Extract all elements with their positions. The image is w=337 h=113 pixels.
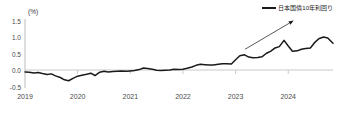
- bond-yield-chart: (%) -0.50.00.51.01.5 2019202020212022202…: [0, 0, 337, 113]
- legend-label: 日本国債10年利回り: [278, 3, 333, 12]
- upward-trend-arrow-icon: [245, 21, 292, 49]
- x-tick-label: 2021: [114, 93, 146, 100]
- y-tick-label: 1.5: [0, 18, 21, 25]
- y-tick-label: -0.5: [0, 84, 21, 91]
- axis-lines: [25, 19, 333, 88]
- y-tick-label: 0.0: [0, 67, 21, 74]
- x-tick-label: 2023: [220, 93, 252, 100]
- y-tick-label: 1.0: [0, 34, 21, 41]
- y-tick-label: 0.5: [0, 51, 21, 58]
- chart-legend: 日本国債10年利回り: [262, 3, 333, 12]
- y-axis-unit-label: (%): [28, 8, 38, 15]
- x-tick-label: 2020: [62, 93, 94, 100]
- x-tick-label: 2019: [9, 93, 41, 100]
- x-tick-label: 2022: [167, 93, 199, 100]
- yield-line-series: [25, 37, 333, 81]
- legend-line-swatch: [262, 7, 276, 9]
- x-tick-label: 2024: [272, 93, 304, 100]
- annotation-arrow-group: [245, 21, 292, 49]
